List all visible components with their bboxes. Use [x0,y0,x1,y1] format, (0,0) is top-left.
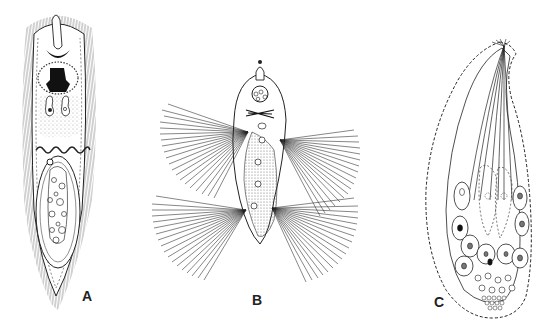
organism-c-illustration [380,0,548,328]
panel-label-c: C [434,295,444,309]
panel-label-b: B [252,293,262,307]
organism-b-illustration [140,0,380,328]
panel-c [380,0,548,328]
panel-label-a: A [82,289,92,303]
panel-b [140,0,380,328]
panel-a [0,0,140,328]
organism-a-illustration [0,0,140,328]
